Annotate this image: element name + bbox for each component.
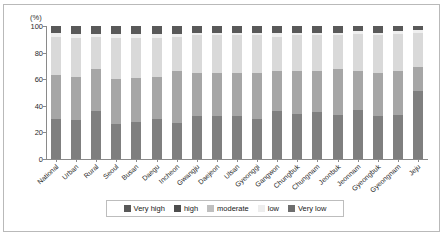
- bar-segment-very-low: [212, 116, 222, 159]
- bar-segment-moderate: [292, 35, 302, 71]
- bar-segment-high: [51, 33, 61, 37]
- bar-column: [232, 26, 242, 159]
- legend-label: Very high: [134, 204, 165, 213]
- bar-segment-very-low: [91, 111, 101, 159]
- bar-column: [51, 26, 61, 159]
- bar-segment-low: [333, 69, 343, 116]
- bar-segment-low: [252, 73, 262, 120]
- bar-segment-high: [333, 33, 343, 36]
- legend-item: Very low: [288, 204, 326, 213]
- bar-segment-moderate: [91, 37, 101, 69]
- y-tick-mark: [43, 26, 46, 27]
- bar-segment-moderate: [353, 34, 363, 71]
- bar-segment-low: [51, 75, 61, 119]
- bar-segment-very-high: [192, 26, 202, 33]
- bar-segment-high: [172, 34, 182, 37]
- bar-segment-moderate: [172, 37, 182, 72]
- bar-segment-high: [111, 34, 121, 38]
- bar-segment-very-low: [252, 119, 262, 159]
- bar-column: [252, 26, 262, 159]
- bar-segment-very-low: [51, 119, 61, 159]
- bar-segment-very-high: [51, 26, 61, 33]
- bar-segment-very-low: [272, 111, 282, 159]
- bar-segment-high: [292, 33, 302, 36]
- x-tick-mark: [237, 159, 238, 162]
- bar-segment-low: [373, 73, 383, 117]
- x-tick-mark: [197, 159, 198, 162]
- bar-segment-low: [192, 73, 202, 117]
- legend-item: Very high: [124, 204, 165, 213]
- x-tick-mark: [358, 159, 359, 162]
- x-tick-mark: [277, 159, 278, 162]
- bar-segment-low: [91, 69, 101, 112]
- bar-segment-high: [192, 33, 202, 36]
- x-tick-mark: [418, 159, 419, 162]
- bar-segment-very-high: [232, 26, 242, 33]
- legend-label: Very low: [298, 204, 326, 213]
- bar-segment-very-low: [192, 116, 202, 159]
- bar-column: [373, 26, 383, 159]
- y-tick-mark: [43, 132, 46, 133]
- bar-segment-moderate: [152, 38, 162, 77]
- legend-item: moderate: [207, 204, 249, 213]
- bar-segment-moderate: [312, 35, 322, 71]
- x-tick-mark: [378, 159, 379, 162]
- bar-segment-high: [413, 30, 423, 33]
- chart-figure: (%) 020406080100 NationalUrbanRuralSeoul…: [0, 0, 444, 237]
- bar-segment-low: [292, 71, 302, 114]
- bar-segment-very-low: [373, 116, 383, 159]
- bar-segment-very-low: [111, 124, 121, 159]
- legend-label: low: [268, 204, 279, 213]
- legend-item: low: [258, 204, 279, 213]
- bar-segment-very-low: [292, 114, 302, 159]
- bar-segment-very-low: [172, 123, 182, 159]
- bar-segment-moderate: [232, 35, 242, 72]
- x-tick-mark: [56, 159, 57, 162]
- bar-segment-high: [131, 34, 141, 38]
- bar-segment-low: [152, 77, 162, 120]
- bar-segment-very-high: [272, 26, 282, 33]
- bar-segment-moderate: [111, 38, 121, 79]
- bar-column: [192, 26, 202, 159]
- bar-segment-high: [152, 34, 162, 38]
- bar-column: [71, 26, 81, 159]
- bar-segment-low: [272, 71, 282, 111]
- bar-segment-moderate: [272, 37, 282, 72]
- bar-segment-high: [252, 33, 262, 36]
- bar-column: [393, 26, 403, 159]
- bar-segment-very-high: [91, 26, 101, 34]
- bar-column: [312, 26, 322, 159]
- x-tick-mark: [177, 159, 178, 162]
- bar-segment-low: [232, 73, 242, 117]
- legend-item: high: [174, 204, 198, 213]
- bar-segment-moderate: [333, 35, 343, 68]
- bar-column: [111, 26, 121, 159]
- bar-column: [413, 26, 423, 159]
- x-tick-mark: [157, 159, 158, 162]
- legend-swatch-icon: [288, 205, 295, 212]
- bar-segment-very-high: [252, 26, 262, 33]
- bar-segment-low: [131, 78, 141, 122]
- bar-column: [272, 26, 282, 159]
- bar-segment-low: [353, 71, 363, 110]
- y-tick-label: 60: [35, 75, 43, 84]
- bar-column: [212, 26, 222, 159]
- bar-segment-high: [312, 33, 322, 36]
- x-tick-mark: [317, 159, 318, 162]
- x-tick-mark: [398, 159, 399, 162]
- bar-segment-high: [91, 34, 101, 37]
- bar-segment-high: [393, 31, 403, 34]
- bar-segment-high: [71, 34, 81, 38]
- bar-segment-moderate: [393, 34, 403, 71]
- bar-segment-moderate: [131, 38, 141, 78]
- x-tick-mark: [96, 159, 97, 162]
- bar-segment-very-high: [373, 26, 383, 33]
- bar-column: [333, 26, 343, 159]
- y-tick-label: 40: [35, 101, 43, 110]
- chart-legend: Very highhighmoderatelowVery low: [106, 200, 344, 217]
- bar-segment-moderate: [252, 35, 262, 72]
- bar-column: [353, 26, 363, 159]
- bar-segment-moderate: [413, 33, 423, 68]
- y-tick-mark: [43, 53, 46, 54]
- plot-area: 020406080100: [46, 26, 428, 159]
